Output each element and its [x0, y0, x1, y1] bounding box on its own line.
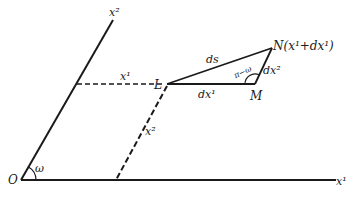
point-M-label: M [249, 89, 263, 103]
segment-MN-label: dx² [263, 64, 281, 77]
segment-LM-label: dx¹ [198, 88, 216, 101]
omega-label: ω [35, 162, 44, 175]
projection-line-to-x1-axis [116, 86, 167, 180]
projection-x2-label: x² [145, 125, 156, 138]
point-N-label: N(x¹+dx¹) [272, 39, 334, 53]
point-L-label: L [153, 78, 162, 92]
x2-axis-label: x² [109, 6, 120, 19]
origin-label: O [8, 173, 18, 187]
projection-x1-label: x¹ [120, 70, 131, 83]
oblique-coordinates-diagram: x² x¹ O ω x¹ x² L M N(x¹+dx¹) dx¹ dx² ds… [0, 0, 349, 198]
x1-axis-label: x¹ [336, 175, 347, 188]
x2-axis [21, 20, 113, 180]
segment-LN [167, 48, 272, 84]
pi-minus-omega-label: π−ω [232, 64, 254, 81]
segment-LN-label: ds [206, 53, 219, 66]
